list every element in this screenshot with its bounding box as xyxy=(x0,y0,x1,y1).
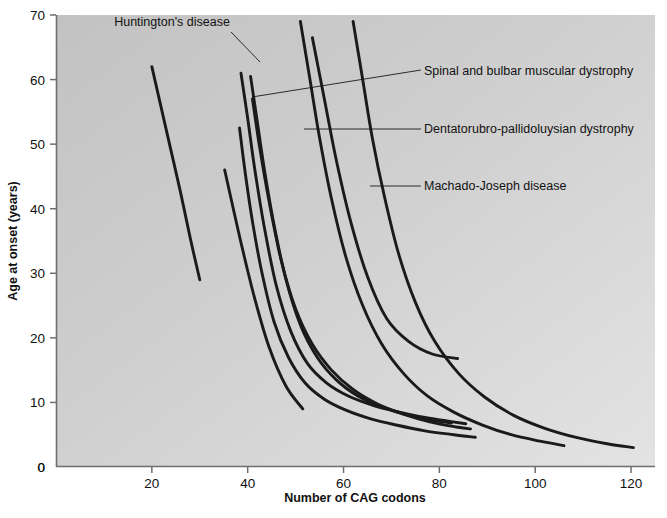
y-tick-label-30: 30 xyxy=(30,266,45,281)
y-tick-label-50: 50 xyxy=(30,137,45,152)
annotation-label-2: Dentatorubro-pallidoluysian dystrophy xyxy=(424,122,635,136)
annotation-label-0: Huntington's disease xyxy=(114,15,230,29)
y-tick-label-40: 40 xyxy=(30,202,45,217)
x-tick-label-20: 20 xyxy=(144,476,159,491)
x-axis-title: Number of CAG codons xyxy=(284,491,426,505)
y-axis-title: Age at onset (years) xyxy=(6,181,20,300)
x-tick-label-60: 60 xyxy=(336,476,351,491)
y-tick-label-10: 10 xyxy=(30,395,45,410)
chart-figure: 010203040506070 204060801001200 Huntingt… xyxy=(0,0,667,518)
x-tick-label-100: 100 xyxy=(524,476,547,491)
x-tick-label-40: 40 xyxy=(240,476,255,491)
x-tick-label-80: 80 xyxy=(432,476,447,491)
x-origin-label: 0 xyxy=(37,460,45,475)
chart-canvas: 010203040506070 204060801001200 Huntingt… xyxy=(0,0,667,518)
annotation-label-3: Machado-Joseph disease xyxy=(424,179,566,193)
y-tick-label-70: 70 xyxy=(30,8,45,23)
y-tick-label-20: 20 xyxy=(30,331,45,346)
x-axis-ticks xyxy=(152,467,631,473)
y-tick-label-60: 60 xyxy=(30,73,45,88)
annotation-label-1: Spinal and bulbar muscular dystrophy xyxy=(424,64,634,78)
y-axis-tick-labels: 010203040506070 xyxy=(30,8,45,475)
y-axis-ticks xyxy=(50,15,56,402)
x-tick-label-120: 120 xyxy=(620,476,643,491)
